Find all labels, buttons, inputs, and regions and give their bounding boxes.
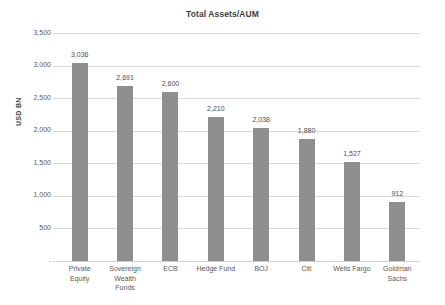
y-tick-mark: [53, 66, 57, 67]
y-tick-mark: [53, 261, 57, 262]
bar-slot: 3,036: [57, 33, 102, 261]
x-tick-label: BOJ: [239, 264, 284, 274]
y-tick-mark: [53, 163, 57, 164]
x-tick-label: Citi: [284, 264, 329, 274]
bar-slot: 2,038: [239, 33, 284, 261]
x-tick-label: GoldmanSachs: [375, 264, 420, 283]
bar-slot: 1,527: [329, 33, 374, 261]
y-tick-label: -: [11, 257, 51, 264]
x-tick-label: Hedge Fund: [193, 264, 238, 274]
y-tick-label: 3,000: [11, 61, 51, 68]
bar-slot: 2,600: [148, 33, 193, 261]
bar-slot: 912: [375, 33, 420, 261]
y-tick-mark: [53, 98, 57, 99]
bar-value-label: 2,600: [162, 80, 180, 87]
y-tick-label: 1,500: [11, 159, 51, 166]
bar-slot: 2,691: [102, 33, 147, 261]
y-tick-label: 2,000: [11, 126, 51, 133]
chart-title: Total Assets/AUM: [0, 9, 445, 19]
y-tick-label: 500: [11, 224, 51, 231]
y-tick-label: 2,500: [11, 94, 51, 101]
bar[interactable]: [162, 92, 178, 261]
bar-chart: Total Assets/AUM USD BN 3,0362,6912,6002…: [0, 0, 445, 305]
bar-value-label: 2,210: [207, 105, 225, 112]
y-tick-mark: [53, 228, 57, 229]
bar[interactable]: [389, 202, 405, 261]
x-tick-label: ECB: [148, 264, 193, 274]
y-tick-mark: [53, 131, 57, 132]
x-axis-labels: PrivateEquitySovereignWealthFundsECBHedg…: [57, 264, 420, 304]
bar-slot: 1,880: [284, 33, 329, 261]
bar-value-label: 1,880: [298, 127, 316, 134]
bar[interactable]: [344, 162, 360, 261]
bar-slot: 2,210: [193, 33, 238, 261]
y-tick-mark: [53, 196, 57, 197]
y-tick-label: 3,500: [11, 29, 51, 36]
x-tick-label: PrivateEquity: [57, 264, 102, 283]
gridline: [57, 261, 420, 262]
x-tick-label: SovereignWealthFunds: [102, 264, 147, 293]
bar-value-label: 1,527: [343, 150, 361, 157]
y-tick-label: 1,000: [11, 191, 51, 198]
bar-value-label: 2,038: [252, 116, 270, 123]
x-tick-label: Wells Fargo: [329, 264, 374, 274]
bar[interactable]: [299, 139, 315, 261]
bar[interactable]: [72, 63, 88, 261]
bar-value-label: 912: [391, 190, 403, 197]
y-tick-mark: [53, 33, 57, 34]
bar[interactable]: [117, 86, 133, 261]
plot-area: 3,0362,6912,6002,2102,0381,8801,527912: [57, 33, 420, 261]
bar-value-label: 3,036: [71, 51, 89, 58]
bar[interactable]: [208, 117, 224, 261]
bar-value-label: 2,691: [116, 74, 134, 81]
bar[interactable]: [253, 128, 269, 261]
